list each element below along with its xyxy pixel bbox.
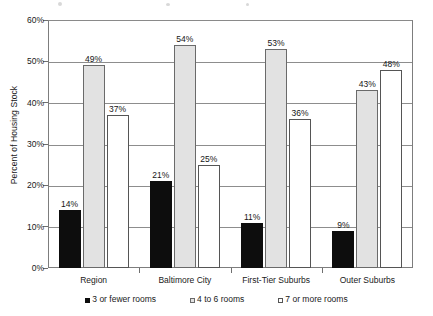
y-axis-tick-label: 50% [4, 56, 44, 66]
scan-artifact [166, 3, 170, 6]
bar [380, 70, 402, 268]
bar-group: 14%49%37% [59, 20, 129, 268]
x-axis-category-label: Region [80, 275, 107, 285]
chart-legend: 3 or fewer rooms4 to 6 rooms7 or more ro… [0, 294, 433, 304]
bar-group: 9%43%48% [332, 20, 402, 268]
y-axis-tick-label: 30% [4, 139, 44, 149]
y-axis-tick-label: 10% [4, 222, 44, 232]
bar-value-label: 36% [292, 108, 309, 118]
scan-artifact [246, 3, 249, 6]
legend-item-label: 7 or more rooms [285, 294, 347, 304]
legend-item: 4 to 6 rooms [190, 294, 244, 304]
bar-value-label: 37% [109, 104, 126, 114]
bar [150, 181, 172, 268]
bar [59, 210, 81, 268]
scan-artifact [58, 2, 62, 6]
bar-value-label: 21% [152, 170, 169, 180]
bar-value-label: 9% [337, 220, 349, 230]
legend-item: 7 or more rooms [278, 294, 347, 304]
y-axis-tick-label: 20% [4, 180, 44, 190]
bar [174, 45, 196, 268]
bar-group: 11%53%36% [241, 20, 311, 268]
y-axis-tick-label: 40% [4, 98, 44, 108]
bar [198, 165, 220, 268]
bars-layer: 14%49%37%21%54%25%11%53%36%9%43%48% [48, 20, 413, 268]
bar-value-label: 14% [61, 199, 78, 209]
x-axis-tick [322, 268, 323, 273]
bar-value-label: 43% [359, 79, 376, 89]
legend-item: 3 or fewer rooms [85, 294, 156, 304]
gray-square-icon [190, 298, 195, 303]
bar [83, 65, 105, 268]
x-axis-category-label: First-Tier Suburbs [242, 275, 310, 285]
x-axis-category-label: Baltimore City [158, 275, 211, 285]
bar [107, 115, 129, 268]
bar-value-label: 54% [176, 34, 193, 44]
y-axis-tick-label: 60% [4, 15, 44, 25]
x-axis-category-label: Outer Suburbs [340, 275, 395, 285]
bar-value-label: 48% [383, 59, 400, 69]
bar [332, 231, 354, 268]
bar-value-label: 53% [268, 38, 285, 48]
bar-chart: Percent of Housing Stock 14%49%37%21%54%… [0, 0, 433, 316]
black-square-icon [85, 298, 90, 303]
bar [289, 119, 311, 268]
bar-value-label: 11% [244, 212, 260, 222]
legend-item-label: 3 or fewer rooms [92, 294, 156, 304]
x-axis-tick [139, 268, 140, 273]
x-axis-tick [231, 268, 232, 273]
bar [356, 90, 378, 268]
y-axis-tick-label: 0% [4, 263, 44, 273]
bar-value-label: 49% [85, 54, 102, 64]
bar-group: 21%54%25% [150, 20, 220, 268]
bar [241, 223, 263, 268]
bar [265, 49, 287, 268]
white-square-icon [278, 298, 283, 303]
bar-value-label: 25% [200, 154, 217, 164]
legend-item-label: 4 to 6 rooms [197, 294, 244, 304]
